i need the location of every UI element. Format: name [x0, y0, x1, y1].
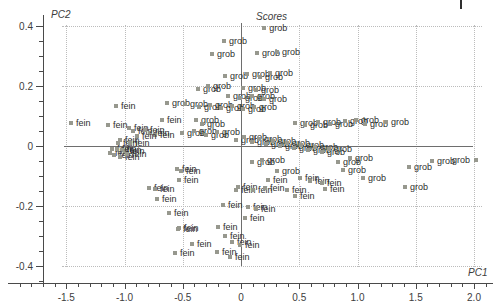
- data-point-marker: [260, 158, 264, 162]
- data-point-marker: [177, 178, 181, 182]
- data-point-label: fein: [180, 249, 195, 258]
- data-point-marker: [293, 121, 297, 125]
- data-point-marker: [262, 97, 266, 101]
- y-axis-tick-label: 0: [27, 141, 33, 152]
- data-point-label: fein: [273, 176, 288, 185]
- data-point-marker: [219, 106, 223, 110]
- data-point-label: fein: [113, 121, 128, 130]
- data-point-label: grob: [229, 37, 247, 46]
- data-point-label: fein: [132, 150, 147, 159]
- data-point-label: grob: [334, 145, 352, 154]
- data-point-marker: [194, 118, 198, 122]
- data-point-marker: [69, 121, 73, 125]
- data-point-label: fein: [235, 253, 250, 262]
- x-axis-minor-tick: [43, 283, 44, 287]
- data-point-marker: [262, 26, 266, 30]
- y-axis-tick-label: 0.2: [19, 81, 33, 92]
- y-axis-minor-tick: [39, 191, 43, 192]
- x-axis-minor-tick: [451, 283, 452, 287]
- x-axis-minor-tick: [171, 283, 172, 287]
- data-point-marker: [125, 152, 129, 156]
- y-axis-minor-tick: [39, 41, 43, 42]
- x-axis-tick: [299, 283, 300, 289]
- data-point-marker: [285, 141, 289, 145]
- data-point-marker: [215, 130, 219, 134]
- y-axis-line: [43, 15, 44, 283]
- data-point-marker: [316, 120, 320, 124]
- x-axis-minor-tick: [206, 283, 207, 287]
- y-axis-tick: [36, 26, 43, 27]
- data-point-label: fein: [245, 241, 260, 250]
- data-point-marker: [114, 104, 118, 108]
- data-point-marker: [222, 39, 226, 43]
- data-point-label: grob: [368, 174, 386, 183]
- data-point-marker: [177, 226, 181, 230]
- data-point-marker: [250, 140, 254, 144]
- data-point-marker: [223, 234, 227, 238]
- data-point-marker: [197, 105, 201, 109]
- data-point-label: grob: [222, 128, 240, 137]
- x-axis-tick: [66, 283, 67, 289]
- data-point-label: fein: [121, 102, 136, 111]
- data-point-marker: [255, 51, 259, 55]
- data-point-marker: [147, 186, 151, 190]
- x-axis-minor-tick: [253, 283, 254, 287]
- x-axis-minor-tick: [194, 283, 195, 287]
- x-axis-line: [8, 283, 493, 284]
- x-axis-minor-tick: [288, 283, 289, 287]
- y-axis-minor-tick: [39, 161, 43, 162]
- data-point-marker: [246, 205, 250, 209]
- data-point-label: grob: [259, 103, 277, 112]
- data-point-marker: [238, 243, 242, 247]
- x-axis-minor-tick: [218, 283, 219, 287]
- data-point-label: fein: [184, 224, 199, 233]
- data-point-marker: [275, 169, 279, 173]
- x-axis-minor-tick: [90, 283, 91, 287]
- vertical-gridline: [474, 25, 475, 267]
- data-point-marker: [328, 122, 332, 126]
- data-point-marker: [183, 102, 187, 106]
- x-axis-minor-tick: [439, 283, 440, 287]
- data-point-label: grob: [217, 50, 235, 59]
- data-point-marker: [210, 52, 214, 56]
- y-axis-tick: [36, 266, 43, 267]
- x-axis-tick-label: 0.5: [292, 292, 306, 303]
- data-point-marker: [153, 187, 157, 191]
- x-axis-minor-tick: [101, 283, 102, 287]
- x-axis-tick: [125, 283, 126, 289]
- data-point-marker: [327, 147, 331, 151]
- y-axis-minor-tick: [39, 56, 43, 57]
- data-point-marker: [285, 188, 289, 192]
- x-axis-minor-tick: [381, 283, 382, 287]
- data-point-marker: [173, 251, 177, 255]
- x-axis-tick-label: 2.0: [467, 292, 481, 303]
- x-axis-minor-tick: [136, 283, 137, 287]
- data-point-marker: [226, 94, 230, 98]
- x-axis-tick-label: -0.5: [174, 292, 191, 303]
- data-point-marker: [299, 143, 303, 147]
- data-point-marker: [323, 187, 327, 191]
- data-point-marker: [165, 101, 169, 105]
- y-axis-tick: [36, 206, 43, 207]
- x-axis-minor-tick: [323, 283, 324, 287]
- y-axis-tick-label: 0.4: [19, 21, 33, 32]
- x-axis-minor-tick: [369, 283, 370, 287]
- data-point-marker: [196, 87, 200, 91]
- data-point-marker: [292, 146, 296, 150]
- y-axis-tick: [36, 86, 43, 87]
- y-axis-minor-tick: [39, 131, 43, 132]
- y-axis-minor-tick: [39, 221, 43, 222]
- data-point-marker: [254, 207, 258, 211]
- data-point-marker: [216, 225, 220, 229]
- chart-title: Scores: [256, 11, 287, 22]
- data-point-marker: [278, 144, 282, 148]
- data-point-marker: [303, 123, 307, 127]
- y-axis-minor-tick: [39, 176, 43, 177]
- x-axis-title: PC1: [468, 267, 487, 278]
- data-point-marker: [430, 159, 434, 163]
- data-point-marker: [275, 50, 279, 54]
- page-corner-mark: [460, 0, 462, 9]
- data-point-marker: [236, 185, 240, 189]
- x-axis-minor-tick: [427, 283, 428, 287]
- data-point-marker: [474, 158, 478, 162]
